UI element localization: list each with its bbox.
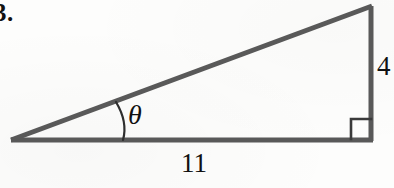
figure-canvas: 3. θ 11 4 — [0, 0, 394, 188]
triangle-outline — [11, 6, 373, 141]
problem-number-label: 3. — [0, 0, 14, 25]
base-length-label: 11 — [181, 150, 207, 177]
right-angle-marker-icon — [351, 119, 371, 139]
angle-arc-icon — [116, 102, 124, 140]
angle-theta-label: θ — [128, 101, 142, 129]
opposite-length-label: 4 — [377, 53, 391, 80]
triangle-hypotenuse-side — [11, 6, 372, 140]
